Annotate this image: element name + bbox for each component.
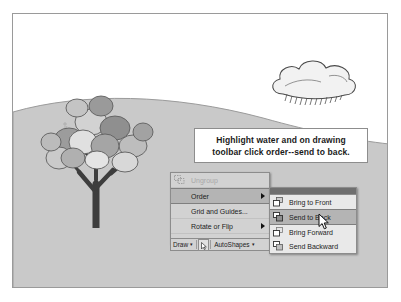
- chevron-down-icon: ▾: [252, 242, 255, 247]
- toolbar-draw-button[interactable]: Draw ▾: [171, 239, 195, 250]
- toolbar-draw-label: Draw: [173, 241, 188, 248]
- toolbar-select-button[interactable]: [198, 239, 209, 251]
- draw-popup-menu[interactable]: Ungroup Order Grid and Guides... Rotate …: [170, 172, 270, 244]
- menu-item-grid-and-guides[interactable]: Grid and Guides...: [171, 204, 269, 219]
- menu-item-ungroup-label: Ungroup: [191, 177, 218, 184]
- toolbar-autoshapes-label: AutoShapes: [214, 241, 249, 248]
- chevron-right-icon: [261, 193, 265, 199]
- menu-item-ungroup: Ungroup: [171, 173, 269, 188]
- bring-forward-icon: [273, 227, 285, 237]
- order-submenu[interactable]: Bring to Front Send to Back: [269, 187, 357, 254]
- submenu-item-send-backward[interactable]: Send Backward: [270, 239, 356, 253]
- submenu-item-bring-to-front-label: Bring to Front: [289, 199, 331, 206]
- drawing-frame: Highlight water and on drawing toolbar c…: [12, 13, 388, 288]
- submenu-item-send-to-back[interactable]: Send to Back: [270, 209, 356, 225]
- instruction-callout: Highlight water and on drawing toolbar c…: [194, 128, 368, 163]
- menu-item-rotate-or-flip-label: Rotate or Flip: [191, 223, 233, 230]
- screenshot-canvas: Highlight water and on drawing toolbar c…: [0, 0, 401, 302]
- toolbar-autoshapes-button[interactable]: AutoShapes ▾: [212, 239, 256, 250]
- select-arrow-icon: [201, 236, 207, 254]
- send-to-back-icon: [273, 212, 285, 222]
- menu-item-rotate-or-flip[interactable]: Rotate or Flip: [171, 219, 269, 234]
- chevron-down-icon: ▾: [190, 242, 193, 247]
- instruction-line-2: toolbar click order--send to back.: [212, 147, 350, 157]
- cloud-shape: [265, 56, 361, 108]
- bring-to-front-icon: [273, 197, 285, 207]
- menu-item-grid-and-guides-label: Grid and Guides...: [191, 208, 248, 215]
- drawing-toolbar[interactable]: Draw ▾ AutoShapes ▾: [170, 238, 270, 251]
- menu-item-order-label: Order: [191, 193, 209, 200]
- cloud-outline: [273, 61, 356, 99]
- instruction-text: Highlight water and on drawing toolbar c…: [212, 134, 350, 158]
- submenu-item-bring-to-front[interactable]: Bring to Front: [270, 195, 356, 209]
- tree-shape: [39, 92, 157, 228]
- instruction-line-1: Highlight water and on drawing: [216, 135, 346, 145]
- submenu-item-send-backward-label: Send Backward: [289, 243, 338, 250]
- toolbar-separator: [196, 240, 197, 249]
- submenu-drag-handle[interactable]: [270, 188, 356, 195]
- cloud-svg: [265, 56, 361, 108]
- ungroup-icon: [174, 175, 185, 185]
- chevron-right-icon: [261, 223, 265, 229]
- tree-foliage: [41, 96, 153, 172]
- send-backward-icon: [273, 241, 285, 251]
- menu-item-order[interactable]: Order: [171, 188, 269, 204]
- tree-svg: [39, 92, 157, 228]
- submenu-item-bring-forward[interactable]: Bring Forward: [270, 225, 356, 239]
- toolbar-separator: [210, 240, 211, 249]
- mouse-cursor-icon: [318, 213, 330, 230]
